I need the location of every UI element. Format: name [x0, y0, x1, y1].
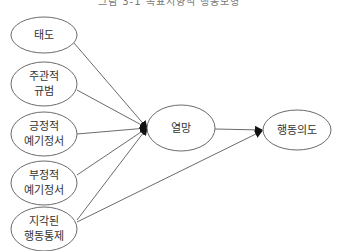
node-label-line: 부정적	[24, 168, 64, 183]
node-label-perceived-behavioral-control: 지각된행동통제	[24, 214, 64, 244]
node-label-attitude: 태도	[34, 28, 54, 43]
node-label-line: 행동의도	[277, 123, 317, 138]
node-label-subjective-norm: 주관적규범	[29, 69, 59, 99]
arrow-desire-to-behavioral_intention	[215, 129, 262, 130]
arrow-attitude-to-desire	[74, 43, 147, 128]
node-label-desire: 열망	[171, 121, 191, 136]
node-label-line: 주관적	[29, 69, 59, 84]
node-label-line: 긍정적	[24, 119, 64, 134]
node-label-line: 행동통제	[24, 229, 64, 244]
node-label-line: 예기정서	[24, 183, 64, 198]
arrow-subjective_norm-to-desire	[77, 90, 147, 128]
node-label-positive-anticipated-emotion: 긍정적예기정서	[24, 119, 64, 149]
node-label-line: 규범	[29, 84, 59, 99]
node-label-line: 태도	[34, 28, 54, 43]
arrow-positive_anticipated_emotion-to-desire	[77, 128, 147, 134]
node-label-line: 예기정서	[24, 134, 64, 149]
node-label-line: 열망	[171, 121, 191, 136]
node-label-line: 지각된	[24, 214, 64, 229]
node-label-negative-anticipated-emotion: 부정적예기정서	[24, 168, 64, 198]
arrow-negative_anticipated_emotion-to-desire	[77, 128, 147, 175]
arrow-perceived_behavioral_control-to-desire	[77, 128, 147, 220]
node-label-behavioral-intention: 행동의도	[277, 123, 317, 138]
